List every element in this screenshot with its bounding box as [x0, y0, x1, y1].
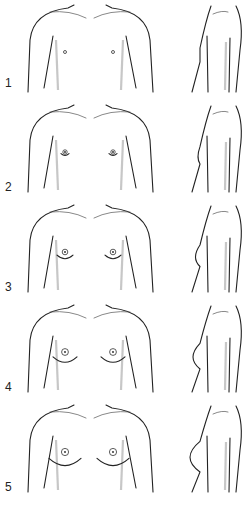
stage-4-drawing — [0, 300, 250, 401]
stage-label: 2 — [5, 180, 12, 194]
stage-1-panel: 1 — [0, 0, 250, 101]
stage-label: 3 — [5, 280, 12, 294]
stage-5-drawing — [0, 400, 250, 501]
stage-1-drawing — [0, 0, 250, 101]
stage-label: 1 — [5, 76, 12, 90]
stage-2-drawing — [0, 100, 250, 201]
stage-label: 4 — [5, 380, 12, 394]
stage-2-panel: 2 — [0, 100, 250, 201]
stage-3-drawing — [0, 200, 250, 301]
stage-5-panel: 5 — [0, 400, 250, 501]
stage-label: 5 — [5, 480, 12, 494]
stage-4-panel: 4 — [0, 300, 250, 401]
stage-3-panel: 3 — [0, 200, 250, 301]
